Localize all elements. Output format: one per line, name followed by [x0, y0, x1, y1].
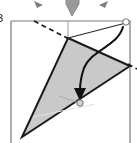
step-label-clipped: B: [0, 12, 3, 24]
reference-point-target: [77, 100, 83, 106]
clipped-arrow-center-down-icon: [66, 0, 79, 16]
reference-point-top-right: [123, 19, 129, 25]
clipped-arrow-left-icon: [34, 1, 43, 8]
figure-canvas: B: [0, 0, 137, 143]
clipped-arrow-right-icon: [99, 1, 108, 8]
fold-diagram-svg: [0, 0, 137, 143]
dashed-crease-upper-left: [34, 21, 69, 39]
shaded-triangle: [22, 38, 130, 137]
clipped-arrows-group: [34, 0, 108, 16]
